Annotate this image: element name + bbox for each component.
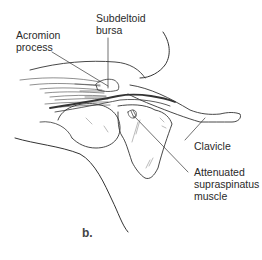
acromion-process-label: Acromion process (16, 29, 60, 53)
supraspinatus-label-line1: Attenuated (194, 166, 259, 178)
acromion-label-line1: Acromion (16, 29, 60, 41)
panel-label: b. (82, 226, 93, 240)
subdeltoid-label-line2: bursa (96, 24, 146, 36)
clavicle-leader (185, 118, 205, 140)
acromion-leader (52, 52, 108, 86)
clavicle (128, 85, 241, 122)
scapula (118, 105, 172, 179)
deltoid-fibers (20, 78, 110, 107)
shoulder-upper-contour (30, 61, 145, 78)
clavicle-label-text: Clavicle (194, 140, 231, 152)
subdeltoid-label-line1: Subdeltoid (96, 12, 146, 24)
acromion-label-line2: process (16, 41, 60, 53)
supraspinatus-label-line2: supraspinatus (194, 178, 259, 190)
clavicle-label: Clavicle (194, 140, 231, 152)
arm-contour (15, 138, 128, 232)
supraspinatus-label-line3: muscle (194, 190, 259, 202)
subdeltoid-bursa-label: Subdeltoid bursa (96, 12, 146, 36)
supraspinatus-leader (134, 116, 188, 172)
neck-contour (140, 32, 169, 78)
supraspinatus-label: Attenuated supraspinatus muscle (194, 166, 259, 202)
